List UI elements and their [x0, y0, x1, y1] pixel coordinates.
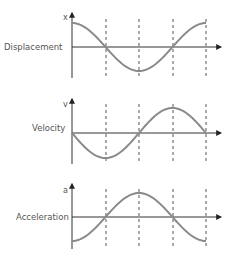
- acceleration-panel: Acceleration a: [16, 184, 221, 249]
- displacement-axis-symbol: x: [63, 13, 68, 22]
- acceleration-axis-symbol: a: [63, 186, 68, 195]
- velocity-axis-symbol: v: [63, 100, 68, 109]
- acceleration-label: Acceleration: [16, 212, 69, 222]
- displacement-label: Displacement: [4, 42, 63, 52]
- displacement-panel: Displacement x: [4, 13, 221, 78]
- velocity-panel: Velocity v: [32, 99, 221, 164]
- velocity-label: Velocity: [32, 123, 65, 133]
- shm-diagram: Displacement x Velocity v Acceleration a: [0, 0, 233, 261]
